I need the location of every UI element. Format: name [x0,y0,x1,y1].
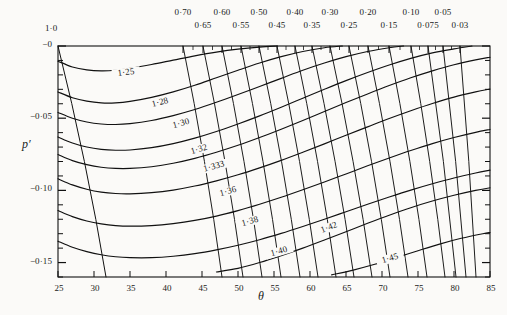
contour-136 [58,89,490,194]
x-tick-label-35: 35 [123,284,139,293]
y-tick-label-2: −0·10 [6,184,52,193]
top-tick-label-0p2: 0·20 [354,8,382,17]
top-tick-label-0p1: 0·10 [397,8,425,17]
contour-142 [216,188,490,272]
top-tick-label-0p03: 0·03 [446,21,474,30]
top-tick-label-0p075: 0·075 [414,21,442,30]
x-tick-label-45: 45 [195,284,211,293]
y-tick-label-1: −0·05 [6,112,52,121]
x-tick-label-55: 55 [267,284,283,293]
x-tick-label-25: 25 [51,284,67,293]
x-axis-label: θ [258,290,264,302]
top-tick-label-0p05: 0·05 [429,8,457,17]
y-axis-label: p′ [22,138,31,150]
chart-svg [0,0,507,315]
top-tick-label-0p65: 0·65 [189,21,217,30]
top-tick-label-0p4: 0·40 [281,8,309,17]
x-tick-label-80: 80 [447,284,463,293]
contour-145 [332,233,490,275]
top-tick-label-0p45: 0·45 [263,21,291,30]
x-tick-label-60: 60 [303,284,319,293]
contour-lines [58,46,490,275]
contour-125 [58,46,278,71]
y-tick-label-0: −0 [6,40,52,49]
y-tick-label-3: −0·15 [6,257,52,266]
x-tick-label-70: 70 [375,284,391,293]
contour-140 [58,170,490,258]
x-tick-label-75: 75 [411,284,427,293]
x-tick-label-50: 50 [231,284,247,293]
top-tick-label-0p55: 0·55 [227,21,255,30]
x-tick-label-85: 85 [483,284,499,293]
x-tick-label-65: 65 [339,284,355,293]
contour-138 [58,129,490,226]
top-tick-label-0p7: 0·70 [169,8,197,17]
top-corner-label: 1·0 [45,24,57,33]
top-tick-label-0p15: 0·15 [375,21,403,30]
top-tick-label-0p35: 0·35 [298,21,326,30]
diagonal-family [58,46,476,277]
figure-root: 1·0 p′ θ 25303540455055606570758085−0−0·… [0,0,507,315]
top-tick-label-0p6: 0·60 [208,8,236,17]
x-tick-label-30: 30 [87,284,103,293]
top-tick-label-0p25: 0·25 [335,21,363,30]
top-tick-label-0p5: 0·50 [245,8,273,17]
x-tick-label-40: 40 [159,284,175,293]
top-tick-label-0p3: 0·30 [316,8,344,17]
